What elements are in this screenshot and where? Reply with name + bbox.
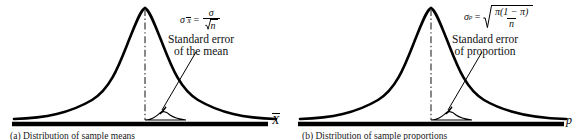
annotation-pointer-left	[162, 52, 196, 110]
annotation-line-2-right: of proportion	[452, 45, 518, 57]
annotation-line-1: Standard error	[168, 33, 234, 45]
caption-left: (a) Distribution of sample means	[10, 131, 135, 140]
formula-sigma-symbol: σ	[180, 15, 185, 26]
annotation-standard-error-of-proportion: Standard error of proportion	[452, 33, 518, 58]
formula-p-subscript: p	[469, 13, 472, 20]
standard-error-bump-left	[145, 112, 186, 120]
formula-standard-error-of-mean: σ X = σ n	[180, 8, 221, 32]
caption-right: (b) Distribution of sample proportions	[302, 131, 447, 140]
annotation-line-2: of the mean	[168, 45, 234, 57]
axis-label-p: p	[566, 113, 572, 128]
left-panel-graphics	[0, 0, 292, 140]
formula-equals-sign: =	[193, 15, 199, 26]
axis-label-x-bar: X	[272, 112, 279, 128]
sqrt-group-right: π(1 − π) n	[483, 5, 533, 29]
formula-xbar-subscript: X	[187, 16, 191, 24]
panel-distribution-of-sample-proportions: σ p = π(1 − π) n Standard	[292, 0, 576, 140]
right-panel-graphics	[292, 0, 576, 140]
formula-fraction: σ n	[203, 8, 220, 32]
formula-denominator-right: n	[507, 18, 516, 29]
formula-fraction-right: π(1 − π) n	[493, 7, 530, 28]
radicand-right: π(1 − π) n	[491, 5, 533, 29]
annotation-line-1-right: Standard error	[452, 33, 518, 45]
formula-numerator: σ	[207, 8, 216, 18]
standard-error-bump-right	[431, 112, 472, 120]
formula-numerator-right: π(1 − π)	[493, 7, 530, 17]
formula-standard-error-of-proportion: σ p = π(1 − π) n	[464, 5, 533, 29]
axis-label-x-bar-text: X	[272, 112, 279, 128]
formula-denominator: n	[203, 18, 220, 32]
panel-distribution-of-sample-means: σ X = σ n Standard	[0, 0, 292, 140]
annotation-pointer-right	[448, 52, 482, 110]
formula-equals-sign-right: =	[475, 12, 481, 23]
radicand: n	[210, 19, 218, 31]
sampling-distribution-figure: σ X = σ n Standard	[0, 0, 576, 140]
annotation-standard-error-of-mean: Standard error of the mean	[168, 33, 234, 58]
sqrt-group: n	[205, 19, 218, 31]
